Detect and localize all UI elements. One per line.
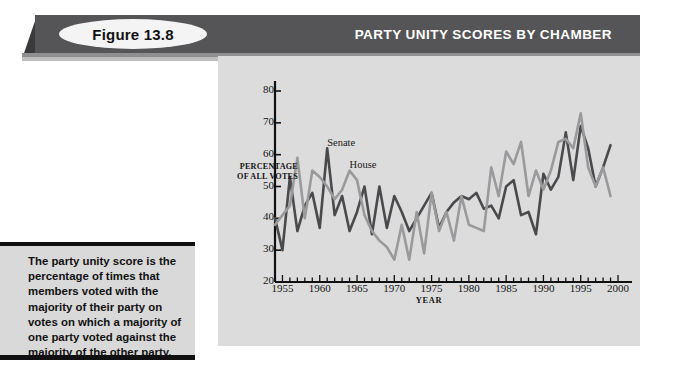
figure-title: PARTY UNITY SCORES BY CHAMBER	[355, 15, 612, 53]
figure-panel: PERCENTAGE OF ALL VOTES 20304050607080 1…	[218, 56, 640, 346]
x-axis-title: YEAR	[218, 296, 640, 305]
figure-number-label: Figure 13.8	[92, 26, 173, 43]
x-axis-tick-label: 2000	[596, 282, 640, 294]
series-annotation-senate: Senate	[327, 137, 355, 148]
chart-plot-area: PERCENTAGE OF ALL VOTES 20304050607080 1…	[218, 56, 640, 346]
figure-number-badge: Figure 13.8	[59, 19, 207, 49]
series-line-house	[275, 113, 611, 259]
caption-box: The party unity score is the percentage …	[0, 242, 195, 360]
y-axis-tick-labels: 20304050607080	[246, 56, 274, 296]
y-axis-tick-label: 80	[246, 83, 274, 95]
series-annotation-house: House	[350, 159, 377, 170]
caption-text: The party unity score is the percentage …	[28, 254, 183, 360]
figure-header-bar: Figure 13.8 PARTY UNITY SCORES BY CHAMBE…	[35, 15, 640, 53]
y-axis-tick-label: 40	[246, 210, 274, 222]
y-axis-tick-label: 50	[246, 179, 274, 191]
y-axis-tick-label: 30	[246, 242, 274, 254]
series-line-senate	[275, 126, 611, 250]
y-axis-tick-label: 70	[246, 115, 274, 127]
y-axis-tick-label: 60	[246, 147, 274, 159]
